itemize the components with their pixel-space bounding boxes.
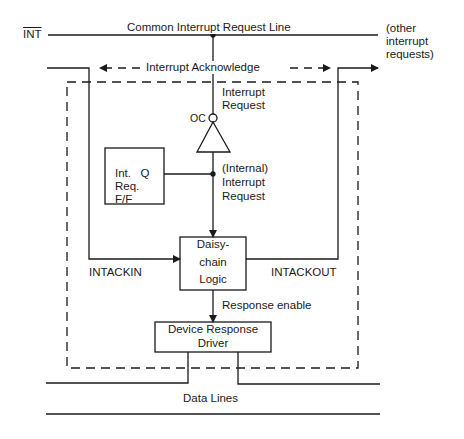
interrupt-ack-label: Interrupt Acknowledge [146,61,260,74]
other-requests-2: interrupt [386,35,428,48]
ff-label-1: Int. Q [115,167,150,180]
internal-request-label-2: Interrupt [222,176,265,189]
response-enable-label: Response enable [222,299,312,312]
data-lines-label: Data Lines [183,392,238,405]
int-signal-label: INT [23,28,42,41]
other-requests-3: requests) [386,48,434,61]
common-line-label: Common Interrupt Request Line [124,21,294,34]
daisy-label-3: Logic [180,273,246,286]
intackin-label: INTACKIN [89,266,142,279]
daisy-label-2: chain [180,256,246,269]
ff-label-2: Req. [115,180,139,193]
daisy-label-1: Daisy- [180,238,246,251]
oc-label: OC [190,112,206,125]
driver-label-2: Driver [155,337,271,350]
other-requests-1: (other [386,22,416,35]
interrupt-request-label-2: Request [222,99,265,112]
buffer-triangle-icon [197,122,230,152]
driver-label-1: Device Response [155,323,271,336]
interrupt-request-label-1: Interrupt [222,86,265,99]
internal-request-label-1: (Internal) [222,162,268,175]
internal-request-label-3: Request [222,190,265,203]
ff-label-3: F/F [115,193,132,206]
intackout-label: INTACKOUT [271,266,337,279]
